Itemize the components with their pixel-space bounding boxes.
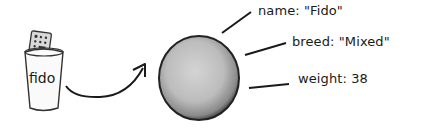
variable-name-label: fido xyxy=(29,70,55,86)
connector-name xyxy=(222,12,251,33)
diagram-drawing xyxy=(0,0,421,130)
connector-breed xyxy=(245,43,286,55)
connector-weight xyxy=(249,84,289,88)
reference-arrow xyxy=(66,64,145,97)
property-breed: breed: "Mixed" xyxy=(292,34,390,49)
object-sphere xyxy=(159,36,239,120)
property-name: name: "Fido" xyxy=(258,3,343,18)
property-weight: weight: 38 xyxy=(298,71,368,86)
reference-diagram: fido name: "Fido" breed: "Mixed" weight:… xyxy=(0,0,421,130)
